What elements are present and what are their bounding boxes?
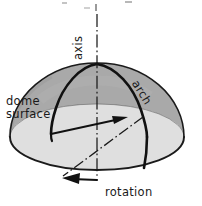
- label-dome-surface-line2: surface: [6, 108, 51, 121]
- rotation-arrow: [62, 173, 97, 184]
- label-dome-surface: dome surface: [6, 95, 51, 120]
- top-crop-artifacts: [62, 1, 132, 11]
- label-axis: axis: [72, 36, 85, 60]
- dome-diagram-figure: axis arch dome surface rotation: [0, 0, 202, 206]
- label-dome-surface-line1: dome: [6, 95, 51, 108]
- label-rotation: rotation: [105, 186, 153, 199]
